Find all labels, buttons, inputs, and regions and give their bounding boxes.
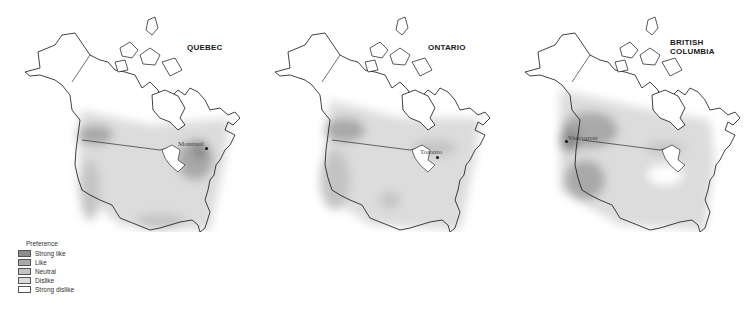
- legend-label: Strong dislike: [35, 286, 74, 293]
- city-marker-icon: [205, 147, 208, 150]
- preference-map: [0, 0, 250, 232]
- map-panel-ontario: ONTARIO Toronto: [250, 0, 500, 232]
- swatch-strong-like: [18, 250, 31, 257]
- swatch-dislike: [18, 277, 31, 284]
- legend-item: Strong like: [18, 249, 74, 258]
- legend-title: Preference: [26, 240, 74, 247]
- legend-item: Dislike: [18, 276, 74, 285]
- legend-label: Like: [35, 259, 47, 266]
- swatch-like: [18, 259, 31, 266]
- swatch-strong-dislike: [18, 286, 31, 293]
- city-label-vancouver: Vancouver: [568, 134, 598, 142]
- swatch-neutral: [18, 268, 31, 275]
- map-panel-british-columbia: BRITISH COLUMBIA Vancouver: [500, 0, 750, 232]
- map-title: BRITISH COLUMBIA: [670, 38, 715, 56]
- map-title: ONTARIO: [428, 43, 466, 52]
- legend-item: Neutral: [18, 267, 74, 276]
- city-label-toronto: Toronto: [420, 148, 442, 156]
- city-marker-icon: [436, 156, 439, 159]
- city-label-montreal: Montreal: [178, 140, 204, 148]
- map-title: QUEBEC: [187, 43, 222, 52]
- preference-map: [250, 0, 500, 232]
- legend-label: Dislike: [35, 277, 54, 284]
- map-panel-quebec: QUEBEC Montreal: [0, 0, 250, 232]
- legend-label: Neutral: [35, 268, 56, 275]
- legend-item: Like: [18, 258, 74, 267]
- preference-map: [500, 0, 750, 232]
- legend: Preference Strong like Like Neutral Disl…: [18, 240, 74, 294]
- legend-item: Strong dislike: [18, 285, 74, 294]
- legend-label: Strong like: [35, 250, 66, 257]
- city-marker-icon: [565, 140, 568, 143]
